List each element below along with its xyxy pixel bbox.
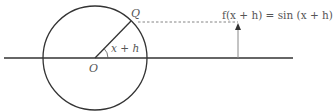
arrow-head-icon xyxy=(235,23,241,30)
label-origin: O xyxy=(89,62,98,75)
unit-circle-diagram: Q O x + h f(x + h) = sin (x + h) xyxy=(0,0,336,111)
label-q: Q xyxy=(131,7,140,20)
angle-arc xyxy=(104,49,108,59)
label-formula: f(x + h) = sin (x + h) xyxy=(222,9,333,21)
label-angle: x + h xyxy=(111,42,139,54)
